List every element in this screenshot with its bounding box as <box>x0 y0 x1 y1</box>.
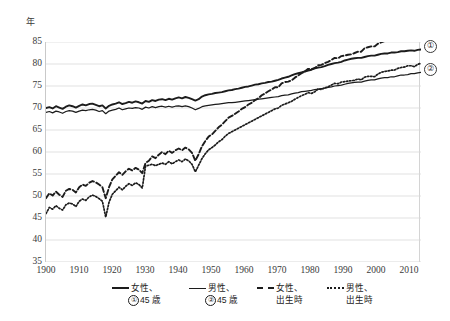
y-tick-45: 45 <box>2 213 42 223</box>
legend-label-female-birth-line2: 出生時 <box>276 295 303 305</box>
callout-1: ① <box>424 39 437 53</box>
legend-label-female-birth-line1: 女性、 <box>276 282 303 294</box>
legend-item-female-birth[interactable]: 女性、 出生時 <box>257 282 303 306</box>
legend-circled-2-icon: ② <box>205 295 216 306</box>
y-tick-85: 85 <box>2 37 42 47</box>
legend-line-solid-thick-icon <box>112 287 129 289</box>
x-tick-2010: 2010 <box>389 265 429 275</box>
y-tick-75: 75 <box>2 81 42 91</box>
legend-item-male-birth[interactable]: 男性、 出生時 <box>327 282 373 306</box>
legend-item-male-45[interactable]: 男性、 ②45 歳 <box>189 282 238 306</box>
y-tick-65: 65 <box>2 125 42 135</box>
chart-root: 年 85 80 75 70 65 60 55 50 45 40 35 1900 … <box>0 0 450 321</box>
callout-2-symbol: ② <box>424 63 437 76</box>
legend-line-solid-thin-icon <box>189 288 206 289</box>
legend-label-male-birth-line1: 男性、 <box>346 282 373 294</box>
y-tick-80: 80 <box>2 59 42 69</box>
y-tick-70: 70 <box>2 103 42 113</box>
legend-item-female-45[interactable]: 女性、 ①45 歳 <box>112 282 161 306</box>
y-tick-40: 40 <box>2 235 42 245</box>
plot-area <box>45 42 420 262</box>
legend-label-male-45-line2: 45 歳 <box>217 295 238 305</box>
legend-line-dashed-icon <box>257 287 274 289</box>
legend-circled-1-icon: ① <box>128 295 139 306</box>
series-line-female_birth <box>46 42 421 198</box>
y-tick-55: 55 <box>2 169 42 179</box>
callout-2: ② <box>424 62 437 76</box>
legend: 女性、 ①45 歳 男性、 ②45 歳 女性、 出生時 <box>0 282 450 318</box>
legend-label-male-45-line1: 男性、 <box>208 282 235 294</box>
series-line-male_45 <box>46 72 421 113</box>
series-line-female_45 <box>46 49 421 108</box>
legend-line-dotted-icon <box>327 287 344 289</box>
y-tick-50: 50 <box>2 191 42 201</box>
y-tick-60: 60 <box>2 147 42 157</box>
chart-canvas <box>46 42 421 262</box>
legend-label-female-45-line2: 45 歳 <box>140 295 161 305</box>
legend-label-male-birth-line2: 出生時 <box>346 295 373 305</box>
callout-1-symbol: ① <box>424 40 437 53</box>
x-axis-tick-labels: 1900 1910 1920 1930 1940 1950 1960 1970 … <box>0 265 450 279</box>
legend-label-female-45-line1: 女性、 <box>131 282 158 294</box>
